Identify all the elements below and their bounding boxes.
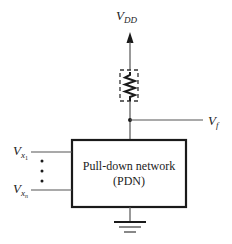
pdn-block-subtitle: (PDN): [113, 174, 145, 188]
ellipsis-dots-icon: [41, 160, 44, 183]
input-label-n: Vxn: [13, 181, 28, 199]
vf-label: Vf: [208, 113, 220, 130]
vdd-label: VDD: [116, 8, 137, 25]
ground-icon: [114, 207, 146, 232]
supply-arrow-icon: [127, 32, 134, 70]
input-label-1: Vx1: [13, 143, 28, 161]
pull-up-resistor-icon: [120, 70, 138, 101]
pdn-circuit-diagram: VDD Vf Pull-down network (PDN) Vx1 Vxn: [0, 0, 232, 244]
pdn-block-title: Pull-down network: [83, 159, 175, 173]
